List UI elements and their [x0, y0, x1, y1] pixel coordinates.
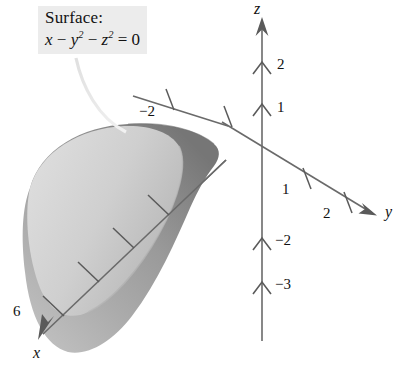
x-axis-label: x	[33, 344, 40, 362]
surface-plot-canvas	[0, 0, 405, 374]
x-tick-label-6: 6	[13, 303, 21, 320]
y-axis-arrowhead	[359, 203, 378, 216]
z-tick-label-2: 2	[277, 56, 285, 73]
y-tick-label-neg2: −2	[139, 103, 155, 120]
z-tick-label-neg2: −2	[275, 232, 291, 249]
surface-equation-label: Surface: x − y2 − z2 = 0	[38, 6, 147, 54]
z-tick-label-1: 1	[277, 99, 285, 116]
y-tick-label-2: 2	[323, 205, 331, 222]
surface-plot-figure: Surface: x − y2 − z2 = 0 z y x 2 1 −2 −3…	[0, 0, 405, 374]
y-axis-label: y	[385, 203, 392, 221]
z-tick-label-neg3: −3	[275, 276, 291, 293]
y-tick-label-1: 1	[282, 181, 290, 198]
surface-label-equation: x − y2 − z2 = 0	[45, 29, 140, 50]
label-leader-line	[76, 58, 126, 132]
z-axis-label: z	[254, 0, 260, 18]
surface-label-line1: Surface:	[45, 8, 140, 29]
y-axis-line	[222, 122, 372, 213]
